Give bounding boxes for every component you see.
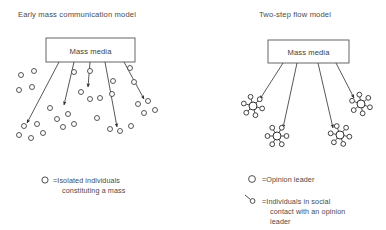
social-contact-individual xyxy=(341,142,346,147)
mass-media-box-right-label: Mass media xyxy=(288,48,331,57)
isolated-individual xyxy=(142,111,147,116)
isolated-individual xyxy=(29,136,34,141)
social-contact-individual xyxy=(279,142,284,147)
isolated-individual xyxy=(61,125,66,130)
mass-media-box-left-label: Mass media xyxy=(70,47,113,56)
social-contact-individual xyxy=(260,106,265,111)
isolated-individual xyxy=(153,108,158,113)
social-contact-individual xyxy=(284,134,289,139)
isolated-individual xyxy=(88,69,93,74)
legend-isolated-individual-icon xyxy=(42,177,48,183)
isolated-individual xyxy=(88,97,93,102)
flow-arrow xyxy=(260,63,283,99)
panel-two-step-flow: Two-step flow model Mass media =Opinion … xyxy=(241,10,372,226)
isolated-individual xyxy=(110,92,115,97)
flow-arrow xyxy=(283,63,297,128)
isolated-individual xyxy=(35,122,40,127)
legend-right: =Opinion leader =Individuals in social c… xyxy=(245,175,345,226)
social-contact-individual xyxy=(366,95,371,100)
flow-arrow xyxy=(64,62,74,105)
mass-media-box-right: Mass media xyxy=(268,40,349,63)
isolated-individual xyxy=(128,66,133,71)
isolated-individual xyxy=(19,73,24,78)
flow-arrow xyxy=(336,63,354,98)
isolated-individual xyxy=(98,96,103,101)
flow-arrows-right xyxy=(260,63,354,128)
isolated-individual xyxy=(95,116,100,121)
mass-media-box-left: Mass media xyxy=(46,38,135,62)
diagram-canvas: Early mass communication model Mass medi… xyxy=(0,0,386,230)
isolated-individual xyxy=(108,127,113,132)
isolated-individual xyxy=(41,131,46,136)
opinion-leader xyxy=(336,131,344,139)
opinion-leader-cluster xyxy=(265,125,289,146)
opinion-leader xyxy=(357,100,365,108)
legend-left: =Isolated individuals constituting a mas… xyxy=(42,176,126,195)
flow-arrows-left xyxy=(27,62,144,127)
isolated-individual xyxy=(79,90,84,95)
opinion-leader xyxy=(249,102,257,110)
social-contact-individual xyxy=(244,110,249,115)
isolated-individual xyxy=(48,106,53,111)
isolated-individual xyxy=(146,99,151,104)
opinion-leader-cluster xyxy=(328,124,352,147)
social-contact-individual xyxy=(270,125,275,130)
isolated-individual xyxy=(111,79,116,84)
legend-opinion-leader-icon xyxy=(249,176,256,183)
isolated-individual xyxy=(129,124,134,129)
social-contact-individual xyxy=(279,125,284,130)
panel-title-right: Two-step flow model xyxy=(259,10,331,19)
flow-arrow xyxy=(88,62,90,87)
legend-right-social-line-2: contact with an opinion xyxy=(270,207,345,216)
opinion-leader xyxy=(273,132,281,140)
isolated-individual xyxy=(17,133,22,138)
isolated-individual xyxy=(22,124,27,129)
social-contact-individual xyxy=(351,108,356,113)
social-contact-individual xyxy=(344,125,349,130)
isolated-individual xyxy=(55,117,60,122)
social-contact-individual xyxy=(328,131,333,136)
social-contact-individual xyxy=(347,134,352,139)
opinion-leader-clusters xyxy=(241,92,372,146)
social-contact-individual xyxy=(331,140,336,145)
social-contact-individual xyxy=(270,142,275,147)
social-contact-individual xyxy=(253,113,258,118)
isolated-individual xyxy=(72,70,77,75)
flow-arrow xyxy=(318,63,333,128)
social-contact-individual xyxy=(248,94,253,99)
social-contact-individual xyxy=(357,92,362,97)
social-contact-individual xyxy=(241,101,246,106)
opinion-leader-cluster xyxy=(241,94,264,117)
social-contact-individual xyxy=(265,134,270,139)
social-contact-individual xyxy=(350,98,355,103)
isolated-individual xyxy=(72,122,77,127)
legend-social-contact-icon xyxy=(245,195,255,203)
isolated-individual xyxy=(118,129,123,134)
legend-right-opinion-leader-text: =Opinion leader xyxy=(262,175,315,184)
social-contact-individual xyxy=(334,124,339,129)
legend-left-line-1: =Isolated individuals xyxy=(53,176,120,185)
social-contact-individual xyxy=(368,105,373,110)
legend-right-social-line-3: leader xyxy=(270,217,291,226)
isolated-individual xyxy=(30,85,35,90)
social-contact-individual xyxy=(360,111,365,116)
social-contact-individual xyxy=(257,97,262,102)
isolated-individual xyxy=(32,69,37,74)
panel-early-mass-communication: Early mass communication model Mass medi… xyxy=(17,10,158,195)
legend-left-line-2: constituting a mass xyxy=(62,186,126,195)
isolated-individual xyxy=(17,88,22,93)
panel-title-left: Early mass communication model xyxy=(18,10,136,19)
isolated-individual xyxy=(132,80,137,85)
isolated-individual xyxy=(136,102,141,107)
legend-right-social-line-1: =Individuals in social xyxy=(262,197,331,206)
isolated-individual xyxy=(66,112,71,117)
